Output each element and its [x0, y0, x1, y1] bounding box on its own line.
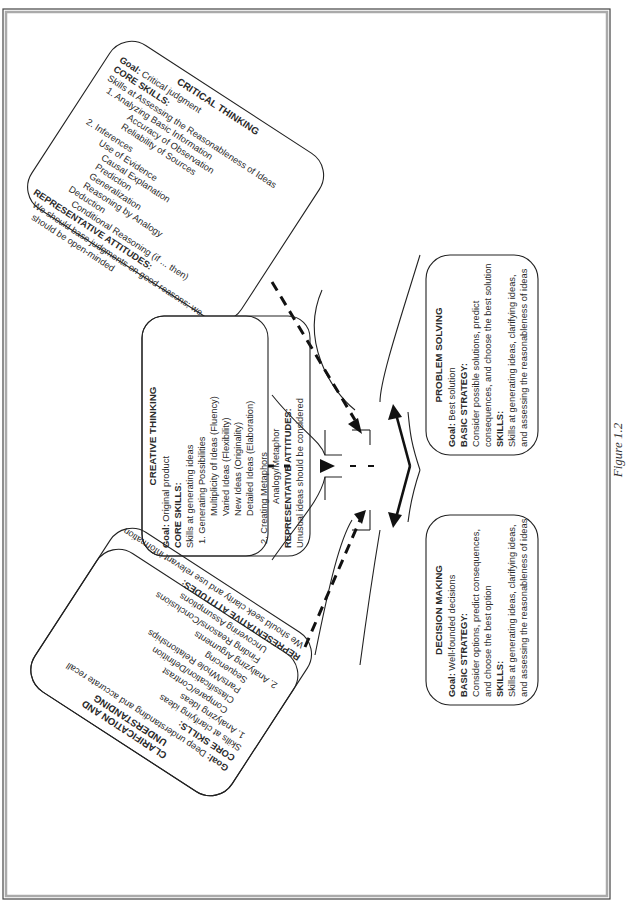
svg-text:SKILLS:: SKILLS:: [495, 411, 505, 447]
svg-text:Analogy/Metaphor: Analogy/Metaphor: [271, 429, 281, 504]
svg-text:Unusual ideas should be consid: Unusual ideas should be considered: [295, 398, 305, 548]
decision-title: DECISION MAKING: [433, 565, 444, 655]
svg-text:consequences, and choose the b: consequences, and choose the best soluti…: [483, 264, 493, 448]
decision-making-box: DECISION MAKING Goal: Well-founded decis…: [426, 515, 538, 705]
svg-text:Skills at generating ideas: Skills at generating ideas: [185, 444, 195, 548]
creative-title: CREATIVE THINKING: [147, 386, 158, 485]
solid-arrows: [396, 414, 410, 518]
problem-solving-box: PROBLEM SOLVING Goal: Best solution BASI…: [426, 255, 538, 455]
arrowhead-creative: [320, 459, 335, 473]
svg-text:1. Generating Possibilities: 1. Generating Possibilities: [197, 436, 207, 544]
svg-text:Skills at generating ideas, cl: Skills at generating ideas, clarifying i…: [507, 524, 517, 697]
svg-text:New Ideas (Originality): New Ideas (Originality): [233, 422, 243, 516]
svg-text:Skills at generating ideas, cl: Skills at generating ideas, clarifying i…: [507, 274, 517, 447]
figure-caption: Figure 1.2: [610, 422, 625, 478]
svg-text:Consider possible solutions, p: Consider possible solutions, predict: [471, 300, 481, 447]
critical-thinking-box: CRITICAL THINKING Goal: Critical judgmen…: [18, 31, 334, 331]
creative-thinking-box: CREATIVE THINKING Goal: Original product…: [142, 316, 268, 556]
svg-text:Varied Ideas (Flexibility): Varied Ideas (Flexibility): [221, 417, 231, 516]
svg-text:BASIC STRATEGY:: BASIC STRATEGY:: [459, 363, 469, 447]
clarification-box: CLARIFICATION AND UNDERSTANDING Goal: De…: [21, 539, 308, 805]
svg-text:and choose the best option: and choose the best option: [483, 585, 493, 697]
arrowheads: [320, 418, 366, 524]
svg-text:Detailed Ideas (Elaboration): Detailed Ideas (Elaboration): [245, 401, 255, 516]
problem-title: PROBLEM SOLVING: [433, 307, 444, 402]
svg-text:Goal: Well-founded decisions: Goal: Well-founded decisions: [447, 574, 457, 697]
svg-text:BASIC STRATEGY:: BASIC STRATEGY:: [459, 613, 469, 697]
solid-arrowheads: [388, 404, 402, 528]
arrowhead-critical: [348, 418, 362, 434]
svg-text:and assessing the reasonablene: and assessing the reasonableness of idea…: [519, 518, 529, 697]
thinking-skills-diagram: CRITICAL THINKING Goal: Critical judgmen…: [0, 0, 629, 903]
svg-text:Multiplicity of Ideas (Fluency: Multiplicity of Ideas (Fluency): [209, 396, 219, 516]
svg-text:Consider options, predict cons: Consider options, predict consequences,: [471, 529, 481, 697]
svg-text:Goal: Best solution: Goal: Best solution: [447, 367, 457, 447]
svg-text:Goal: Original product: Goal: Original product: [161, 456, 171, 548]
svg-text:2. Creating Metaphors: 2. Creating Metaphors: [259, 452, 269, 544]
svg-text:and assessing the reasonablene: and assessing the reasonableness of idea…: [519, 268, 529, 447]
svg-text:CORE SKILLS:: CORE SKILLS:: [173, 482, 183, 548]
svg-text:SKILLS:: SKILLS:: [495, 661, 505, 697]
svg-text:REPRESENTATIVE ATTITUDES:: REPRESENTATIVE ATTITUDES:: [283, 408, 293, 548]
